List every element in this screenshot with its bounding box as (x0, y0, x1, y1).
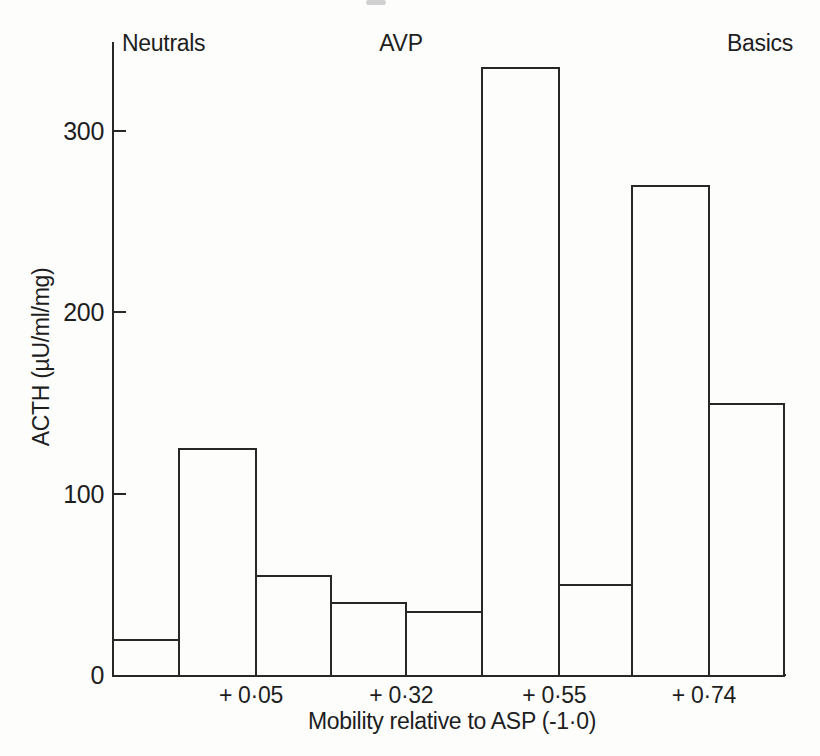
y-tick-100 (114, 493, 126, 495)
bar-5 (405, 611, 483, 677)
y-tick-label-100: 100 (40, 479, 104, 509)
plot-area: Neutrals AVP Basics ACTH (µU/ml/mg) Mobi… (0, 0, 820, 756)
bar-2 (178, 448, 257, 677)
x-marker-label-2: + 0·32 (341, 682, 461, 708)
bar-1 (112, 639, 180, 677)
y-axis-label: ACTH (µU/ml/mg) (28, 268, 55, 447)
y-tick-200 (114, 311, 126, 313)
x-marker-label-4: + 0·74 (644, 682, 764, 708)
bar-7 (558, 584, 633, 677)
x-marker-label-1: + 0·05 (191, 682, 311, 708)
bar-8 (631, 185, 709, 677)
region-label-avp: AVP (379, 30, 422, 56)
region-label-neutrals: Neutrals (122, 30, 205, 56)
y-tick-300 (114, 130, 126, 132)
y-tick-label-300: 300 (40, 116, 104, 146)
bar-6 (481, 67, 560, 677)
x-marker-label-3: + 0·55 (494, 682, 614, 708)
bar-9 (708, 403, 785, 677)
y-tick-label-0: 0 (40, 660, 104, 690)
x-axis-title: Mobility relative to ASP (-1·0) (308, 708, 596, 735)
bar-4 (330, 602, 407, 677)
y-axis-line (112, 42, 114, 677)
scanned-figure-page: Neutrals AVP Basics ACTH (µU/ml/mg) Mobi… (0, 0, 820, 756)
bar-3 (255, 575, 332, 677)
y-tick-label-200: 200 (40, 297, 104, 327)
region-label-basics: Basics (727, 30, 793, 56)
